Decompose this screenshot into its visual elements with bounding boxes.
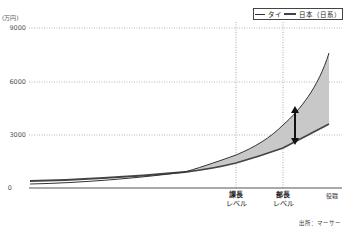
legend: タイ 日本（日系）: [253, 8, 343, 20]
legend-label-thai: タイ: [268, 9, 282, 19]
kacho-line1: 課長: [221, 191, 251, 200]
legend-label-japan: 日本（日系）: [299, 9, 341, 19]
kacho-line2: レベル: [221, 200, 251, 209]
legend-swatch-thick-line: [284, 13, 296, 15]
bucho-line2: レベル: [268, 200, 298, 209]
series-thai-line: [30, 53, 329, 184]
bucho-line1: 部長: [268, 191, 298, 200]
source-note: 出所：マーサー: [299, 219, 341, 227]
legend-item-thai: タイ: [255, 9, 282, 19]
level-markers: [236, 22, 283, 188]
x-marker-label-bucho: 部長 レベル: [268, 191, 298, 209]
x-axis-title: 役職: [326, 191, 338, 200]
gap-shading: [185, 53, 329, 172]
legend-item-japan: 日本（日系）: [284, 9, 341, 19]
x-marker-label-kacho: 課長 レベル: [221, 191, 251, 209]
legend-swatch-thin-line: [255, 14, 265, 15]
